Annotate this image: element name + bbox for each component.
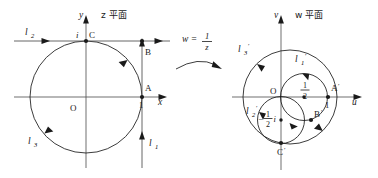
svg-text:2: 2 <box>303 92 307 101</box>
right-label-l2-prime: l 2 ′ <box>246 104 258 118</box>
svg-text:2: 2 <box>31 32 35 39</box>
right-plane-title: w 平面 <box>295 10 323 20</box>
left-plane-title: z 平面 <box>101 10 127 20</box>
right-l3-prime-arrowhead <box>257 64 265 72</box>
right-point-C-prime-label: C ′ <box>277 146 286 157</box>
right-center-neg-half-i-label: − 1 2 i <box>259 110 277 130</box>
svg-text:1: 1 <box>266 110 270 119</box>
right-center-half-label: 1 2 <box>301 81 310 101</box>
svg-text:1: 1 <box>325 100 329 110</box>
right-point-B-prime-label: B ′ <box>314 108 323 119</box>
left-label-l1: l 1 <box>149 138 158 150</box>
right-l2-prime-arrowhead-2 <box>290 123 298 129</box>
svg-text:−: − <box>259 114 264 124</box>
svg-text:l: l <box>246 106 249 116</box>
right-origin-label: O <box>270 86 277 96</box>
svg-text:l: l <box>25 27 28 37</box>
svg-text:C: C <box>277 147 283 157</box>
left-point-C-label: C <box>89 30 95 40</box>
left-point-C <box>84 39 88 43</box>
right-point-A-prime <box>326 95 330 99</box>
left-label-l3: l 3 <box>28 136 38 148</box>
left-point-B-label: B <box>145 47 151 57</box>
right-plane-group: v u w 平面 O A ′ 1 B ′ C ′ 1 <box>232 10 362 170</box>
right-label-l3-prime: l 3 ′ <box>238 42 250 56</box>
figure-canvas: y x z 平面 O i C B A 1 l 2 l 3 l 1 <box>0 0 378 178</box>
left-l3-arrowhead <box>119 60 128 67</box>
svg-text:3: 3 <box>243 49 248 56</box>
transform-annotation: w = 1 z <box>176 31 222 69</box>
svg-text:′: ′ <box>321 108 323 116</box>
transform-label: w = <box>182 34 197 44</box>
transform-denominator: z <box>204 42 209 52</box>
left-point-A-label: A <box>145 83 152 93</box>
svg-text:1: 1 <box>155 143 158 150</box>
svg-text:′: ′ <box>284 146 286 154</box>
svg-text:2: 2 <box>252 111 256 118</box>
svg-text:l: l <box>238 44 241 54</box>
svg-text:3: 3 <box>33 141 38 148</box>
left-tick-i-label: i <box>76 30 79 40</box>
right-axis-v-label-fallback: v <box>274 10 279 20</box>
svg-text:l: l <box>149 138 152 148</box>
svg-text:l: l <box>295 54 298 64</box>
left-plane-group: y x z 平面 O i C B A 1 l 2 l 3 l 1 <box>14 10 170 168</box>
left-point-A <box>140 95 144 99</box>
transform-arrow-curve <box>176 61 216 69</box>
left-l3-arrowhead-2 <box>44 126 53 133</box>
right-axis-u-label: u <box>352 97 357 107</box>
svg-text:′: ′ <box>256 104 258 112</box>
right-l3-prime-arrowhead-2 <box>314 124 323 131</box>
svg-text:1: 1 <box>303 81 307 90</box>
right-point-B-prime <box>309 118 313 122</box>
transform-numerator: 1 <box>205 31 209 41</box>
left-axis-x-label: x <box>157 97 163 107</box>
svg-text:2: 2 <box>266 120 270 129</box>
svg-text:1: 1 <box>301 59 304 66</box>
svg-text:i: i <box>274 114 277 124</box>
right-l1-prime-arrowhead <box>302 74 309 81</box>
right-u-axis <box>232 94 362 100</box>
svg-text:′: ′ <box>338 82 340 90</box>
svg-text:A: A <box>331 83 338 93</box>
left-label-l2: l 2 <box>25 27 35 39</box>
left-point-B <box>140 39 144 43</box>
svg-text:B: B <box>314 109 320 119</box>
transform-arrowhead <box>212 61 222 69</box>
right-point-C-prime <box>279 141 283 145</box>
left-axis-y-label: y <box>78 10 84 20</box>
svg-text:l: l <box>28 136 31 146</box>
mobius-transformation-figure: y x z 平面 O i C B A 1 l 2 l 3 l 1 <box>0 0 378 178</box>
right-center-neg-half-i-dot <box>279 118 282 121</box>
left-origin-label: O <box>70 103 77 113</box>
right-label-l1-prime: l 1 ′ <box>295 52 307 66</box>
left-tick-1-label: 1 <box>139 100 143 110</box>
svg-text:′: ′ <box>248 42 250 50</box>
